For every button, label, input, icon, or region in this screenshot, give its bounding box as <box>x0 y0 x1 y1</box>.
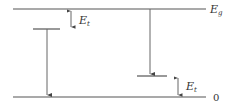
zero-label: 0 <box>213 92 219 103</box>
energy-band-diagram: Eg 0 Et Et <box>0 0 231 108</box>
upper-et-label: Et <box>78 14 90 28</box>
lower-et-label: Et <box>185 80 197 94</box>
eg-label: Eg <box>209 3 223 17</box>
